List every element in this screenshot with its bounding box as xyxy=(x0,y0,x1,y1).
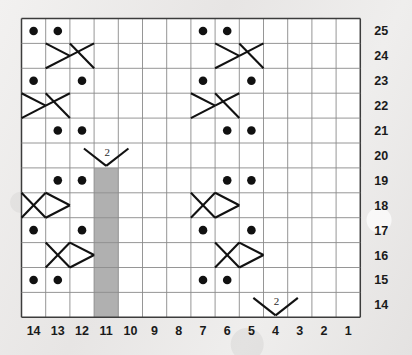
no-stitch-cell xyxy=(94,243,118,268)
purl-dot-symbol xyxy=(54,176,63,185)
column-label: 7 xyxy=(200,324,207,338)
no-stitch-cell xyxy=(94,292,118,317)
row-label: 21 xyxy=(374,124,388,138)
row-label: 22 xyxy=(374,99,388,113)
purl-dot-symbol xyxy=(54,276,63,285)
row-label: 19 xyxy=(374,174,388,188)
knitting-chart: 22 1413121110987654321 25242322212019181… xyxy=(0,0,412,355)
column-label: 11 xyxy=(100,324,113,338)
purl-dot-symbol xyxy=(223,176,232,185)
purl-dot-symbol xyxy=(78,176,87,185)
row-label: 23 xyxy=(374,74,388,88)
purl-dot-symbol xyxy=(29,276,38,285)
row-label: 18 xyxy=(374,199,388,213)
no-stitch-cell xyxy=(94,268,118,293)
column-label: 6 xyxy=(224,324,231,338)
purl-dot-symbol xyxy=(78,226,87,235)
purl-dot-symbol xyxy=(199,226,208,235)
decrease-count-label: 2 xyxy=(104,146,110,158)
column-label: 9 xyxy=(151,324,158,338)
purl-dot-symbol xyxy=(199,76,208,85)
column-label: 12 xyxy=(75,324,89,338)
no-stitch-cell xyxy=(94,218,118,243)
column-label: 3 xyxy=(296,324,303,338)
purl-dot-symbol xyxy=(78,126,87,135)
purl-dot-symbol xyxy=(223,276,232,285)
purl-dot-symbol xyxy=(78,76,87,85)
purl-dot-symbol xyxy=(54,27,63,36)
column-label: 2 xyxy=(321,324,328,338)
decrease-count-label: 2 xyxy=(274,295,280,307)
column-label: 5 xyxy=(248,324,255,338)
purl-dot-symbol xyxy=(247,126,256,135)
row-label: 15 xyxy=(374,273,388,287)
purl-dot-symbol xyxy=(247,176,256,185)
purl-dot-symbol xyxy=(29,76,38,85)
column-label: 1 xyxy=(345,324,352,338)
purl-dot-symbol xyxy=(247,226,256,235)
row-label: 17 xyxy=(374,224,388,238)
column-label: 4 xyxy=(272,324,279,338)
purl-dot-symbol xyxy=(29,27,38,36)
purl-dot-symbol xyxy=(247,76,256,85)
row-label: 14 xyxy=(374,298,388,312)
column-label: 14 xyxy=(27,324,41,338)
column-labels: 1413121110987654321 xyxy=(27,324,352,338)
row-label: 16 xyxy=(374,249,388,263)
purl-dot-symbol xyxy=(199,27,208,36)
chart-canvas: 22 1413121110987654321 25242322212019181… xyxy=(0,0,412,355)
purl-dot-symbol xyxy=(54,126,63,135)
purl-dot-symbol xyxy=(199,276,208,285)
row-label: 25 xyxy=(374,24,388,38)
row-labels: 252423222120191817161514 xyxy=(374,24,388,312)
purl-dot-symbol xyxy=(29,226,38,235)
row-label: 24 xyxy=(374,49,388,63)
no-stitch-cell xyxy=(94,168,118,193)
row-label: 20 xyxy=(374,149,388,163)
no-stitch-cell xyxy=(94,193,118,218)
purl-dot-symbol xyxy=(223,126,232,135)
chart-svg-wrapper: 22 1413121110987654321 25242322212019181… xyxy=(0,0,412,355)
column-label: 8 xyxy=(175,324,182,338)
purl-dot-symbol xyxy=(223,27,232,36)
column-label: 13 xyxy=(51,324,65,338)
column-label: 10 xyxy=(123,324,137,338)
